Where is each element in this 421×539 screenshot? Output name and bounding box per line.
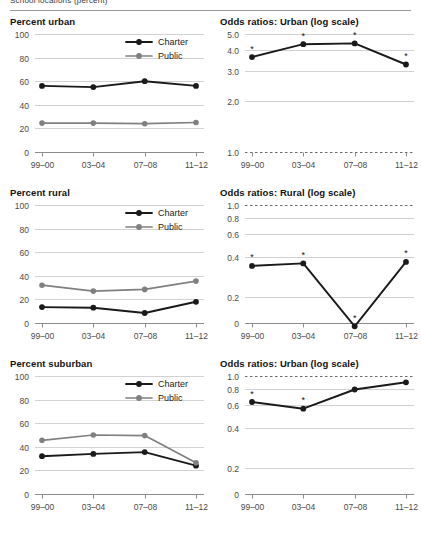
chart-row-suburban: Percent suburban 02040608010099–0003–040… [0,349,421,520]
y-tick-label: 0.4 [227,253,239,263]
legend-label-public: Public [158,222,183,232]
x-tick-label: 03–04 [292,331,316,341]
chart-grid: Percent urban 02040608010099–0003–0407–0… [0,16,421,520]
x-tick-label: 11–12 [395,331,418,341]
y-tick-label: 0.8 [227,385,239,395]
x-tick-label: 07–08 [134,160,158,170]
y-tick-label: 40 [20,443,30,453]
data-point [249,263,255,269]
series-line-charter [252,43,406,64]
data-point [193,460,199,466]
y-tick-label: 40 [20,101,30,111]
y-tick-label: 20 [20,295,30,305]
x-tick-label: 99–00 [31,502,55,512]
chart-row-rural: Percent rural 02040608010099–0003–0407–0… [0,178,421,349]
x-tick-label: 03–04 [82,331,106,341]
panel-odds-rural: Odds ratios: Rural (log scale) 00.20.40.… [210,178,421,349]
data-point [91,432,97,438]
y-tick-label: 0 [24,490,29,500]
y-tick-label: 1.0 [227,148,239,158]
data-point [403,379,409,385]
series-line-charter [42,452,196,466]
data-point [142,433,148,439]
panel-percent-rural: Percent rural 02040608010099–0003–0407–0… [0,178,210,349]
y-tick-label: 60 [20,77,30,87]
significance-star: * [250,44,254,54]
data-point [193,120,199,126]
significance-star: * [250,252,254,262]
data-point [249,54,255,60]
x-tick-label: 07–08 [344,502,368,512]
panel-odds-urban: Odds ratios: Urban (log scale) 1.02.03.0… [210,16,421,178]
y-tick-label: 0 [234,490,239,500]
data-point [91,288,97,294]
series-line-charter [42,81,196,87]
y-tick-label: 1.0 [227,201,239,211]
chart-svg-percent-suburban: 02040608010099–0003–0407–0811–12CharterP… [0,370,210,520]
chart-odds-urban: 1.02.03.04.05.099–0003–0407–0811–12**** [210,28,421,178]
x-tick-label: 99–00 [241,331,265,341]
data-point [142,121,148,127]
y-tick-label: 5.0 [227,30,239,40]
x-tick-label: 07–08 [344,331,368,341]
data-point [300,406,306,412]
significance-star: * [353,313,357,323]
data-point [39,453,45,459]
y-tick-label: 0.2 [227,293,239,303]
data-point [39,438,45,444]
x-tick-label: 03–04 [292,160,316,170]
chart-svg-percent-rural: 02040608010099–0003–0407–0811–12CharterP… [0,199,210,349]
data-point [142,78,148,84]
significance-star: * [302,395,306,405]
data-point [142,287,148,293]
y-tick-label: 20 [20,466,30,476]
header-divider [10,10,411,11]
data-point [39,120,45,126]
legend-swatch-dot-public [136,395,142,401]
legend-label-charter: Charter [158,37,188,47]
y-tick-label: 80 [20,225,30,235]
series-line-public [42,281,196,291]
x-tick-label: 03–04 [82,502,106,512]
data-point [403,259,409,265]
series-line-charter [252,262,406,326]
panel-odds-suburban: Odds ratios: Urban (log scale) 00.20.40.… [210,349,421,520]
y-tick-label: 1.0 [227,372,239,382]
legend-swatch-dot-public [136,224,142,230]
data-point [193,299,199,305]
data-point [142,449,148,455]
data-point [193,278,199,284]
chart-percent-suburban: 02040608010099–0003–0407–0811–12CharterP… [0,370,210,520]
data-point [352,387,358,393]
y-tick-label: 0.2 [227,464,239,474]
panel-title: Percent suburban [10,358,210,369]
y-tick-label: 4.0 [227,46,239,56]
chart-svg-odds-ratios-urban: 1.02.03.04.05.099–0003–0407–0811–12**** [210,28,420,178]
y-tick-label: 80 [20,396,30,406]
data-point [90,451,96,457]
chart-percent-urban: 02040608010099–0003–0407–0811–12CharterP… [0,28,210,178]
data-point [90,84,96,90]
x-tick-label: 11–12 [185,160,208,170]
y-tick-label: 3.0 [227,67,239,77]
x-tick-label: 03–04 [82,160,106,170]
y-tick-label: 0.6 [227,401,239,411]
data-point [249,399,255,405]
panel-percent-suburban: Percent suburban 02040608010099–0003–040… [0,349,210,520]
chart-odds-suburban: 00.20.40.60.81.099–0003–0407–0811–12** [210,370,421,520]
y-tick-label: 0.4 [227,424,239,434]
data-point [142,310,148,316]
legend-swatch-dot-public [136,53,142,59]
data-point [91,120,97,126]
legend-label-charter: Charter [158,208,188,218]
x-tick-label: 11–12 [185,502,208,512]
legend-label-public: Public [158,51,183,61]
significance-star: * [404,248,408,258]
chart-svg-odds-ratios-rural: 00.20.40.60.81.099–0003–0407–0811–12**** [210,199,420,349]
legend-label-charter: Charter [158,379,188,389]
x-tick-label: 11–12 [185,331,208,341]
y-tick-label: 2.0 [227,97,239,107]
x-tick-label: 99–00 [241,160,265,170]
panel-title: Odds ratios: Urban (log scale) [220,16,421,27]
x-tick-label: 99–00 [31,160,55,170]
